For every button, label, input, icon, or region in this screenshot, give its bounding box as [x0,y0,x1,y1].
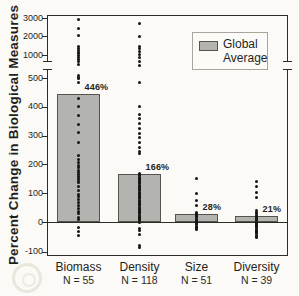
bar-scatter-chart-figure: Percent Change in Biological Measures Gl… [0,0,299,296]
data-point [77,230,80,233]
legend-label-line2: Average [223,52,267,65]
data-point [138,60,141,63]
axis-break-mark [43,61,52,62]
data-point [138,146,141,149]
data-point [195,199,198,202]
y-tick-label: 400 [15,101,43,112]
legend-box: Global Average [192,32,268,70]
data-point [138,246,141,249]
watermark-ring [12,263,42,293]
bar-value-label: 166% [146,162,170,172]
data-point [138,233,141,236]
bar-value-label: 21% [263,204,282,214]
data-point [77,77,80,80]
data-point [138,64,141,67]
data-point [195,192,198,195]
data-point [138,221,141,224]
plot-frame-right-lower [287,69,288,255]
data-point [255,196,258,199]
legend-label-line1: Global [223,38,258,51]
y-tick-label: 0 [15,217,43,228]
watermark-inner-ring [22,273,36,287]
data-point [138,22,141,25]
data-point [138,122,141,125]
data-point [138,136,141,139]
data-point [77,18,80,21]
data-point [138,81,141,84]
data-point [195,204,198,207]
data-point [255,236,258,239]
data-point [138,105,141,108]
data-point [77,226,80,229]
data-point [77,97,80,100]
data-point [138,35,141,38]
y-axis-line-lower [47,69,48,255]
data-point [138,127,141,130]
bar-value-label: 28% [203,202,222,212]
data-point [77,63,80,66]
data-point [138,113,141,116]
data-point [255,180,258,183]
legend-swatch [199,41,218,51]
y-tick-label: 3000 [15,13,43,24]
zero-baseline [47,222,287,223]
data-point [77,123,80,126]
y-tick-label: 100 [15,188,43,199]
data-point [138,117,141,120]
y-axis-line-upper [47,15,48,61]
data-point [138,56,141,59]
y-tick-label: 300 [15,130,43,141]
axis-break-mark [283,61,292,62]
data-point [255,191,258,194]
data-point [77,234,80,237]
data-point [77,114,80,117]
data-point [77,81,80,84]
data-point [195,228,198,231]
axis-break-mark [43,69,52,70]
data-point [77,27,80,30]
x-category-label: Diversity [217,260,297,274]
y-tick-label: 500 [15,73,43,84]
plot-frame-bottom [47,255,288,256]
y-tick-label: 2000 [15,31,43,42]
data-point [195,177,198,180]
data-point [255,185,258,188]
data-point [138,229,141,232]
data-point [77,34,80,37]
data-point [138,152,141,155]
y-tick-label: 200 [15,159,43,170]
y-tick-label: 1000 [15,50,43,61]
data-point [77,158,80,161]
x-category-n-label: N = 39 [217,274,297,286]
plot-frame-top [47,15,288,16]
y-tick-label: -100 [15,246,43,257]
plot-frame-right-upper [287,15,288,61]
data-point [138,141,141,144]
data-point [77,154,80,157]
axis-break-mark [283,69,292,70]
bar-value-label: 446% [85,82,109,92]
data-point [138,132,141,135]
